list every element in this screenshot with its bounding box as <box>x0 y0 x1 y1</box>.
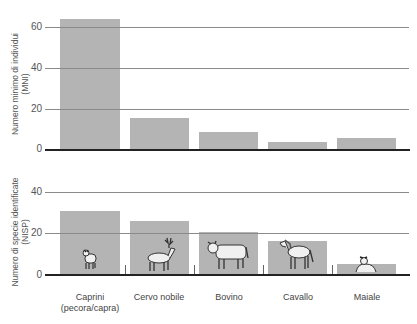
cow-icon <box>206 238 250 271</box>
y-tick-label: 0 <box>22 270 42 280</box>
x-axis-nisp <box>45 274 410 276</box>
x-label-caprini: Caprini (pecora/capra) <box>55 292 125 314</box>
goat-icon <box>80 249 100 271</box>
bar-cervo-mni <box>130 118 189 150</box>
gridline-60 <box>45 27 409 28</box>
y-tick-label: 0 <box>22 144 42 154</box>
pig-icon <box>354 255 378 273</box>
bar-bovino-mni <box>199 132 258 150</box>
y-tick-label: 60 <box>22 22 42 32</box>
x-label-cervo-nobile: Cervo nobile <box>124 292 194 303</box>
gridline-40 <box>45 68 409 69</box>
y-tick-label: 40 <box>22 187 42 197</box>
gridline-40 <box>45 192 409 193</box>
y-tick-label: 20 <box>22 228 42 238</box>
bar-caprini-mni <box>60 19 120 150</box>
y-tick-label: 20 <box>22 104 42 114</box>
y-tick-label: 40 <box>22 63 42 73</box>
y-axis-label-mni: Numero minimo di individui (MNI) <box>10 14 30 154</box>
gridline-20 <box>45 109 409 110</box>
x-axis-mni <box>45 149 410 151</box>
x-label-cavallo: Cavallo <box>263 292 333 303</box>
gridline-20 <box>45 233 409 234</box>
x-label-bovino: Bovino <box>194 292 264 303</box>
horse-icon <box>277 235 317 272</box>
x-label-maiale: Maiale <box>332 292 402 303</box>
deer-icon <box>143 236 179 273</box>
